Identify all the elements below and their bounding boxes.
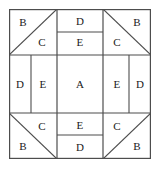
label-top-center-e: E — [77, 37, 84, 48]
label-top-left-c: C — [38, 37, 46, 48]
label-middle-right-e: E — [114, 79, 121, 90]
diagram-canvas: B C D E B C D E A E D C B E D C B — [0, 0, 160, 169]
label-top-center-d: D — [76, 16, 84, 27]
label-bottom-right-c: C — [113, 121, 121, 132]
label-top-right-c: C — [113, 37, 121, 48]
label-bottom-left-c: C — [38, 121, 46, 132]
label-middle-left-e: E — [40, 79, 47, 90]
label-top-left-b: B — [19, 17, 27, 28]
label-bottom-center-e: E — [77, 120, 84, 131]
label-center-a: A — [76, 79, 84, 90]
label-bottom-center-d: D — [76, 142, 84, 153]
label-middle-left-d: D — [16, 79, 24, 90]
label-bottom-left-b: B — [19, 141, 27, 152]
label-middle-right-d: D — [136, 79, 144, 90]
label-bottom-right-b: B — [133, 141, 141, 152]
pieced-block: B C D E B C D E A E D C B E D C B — [9, 9, 151, 159]
label-top-right-b: B — [133, 17, 141, 28]
